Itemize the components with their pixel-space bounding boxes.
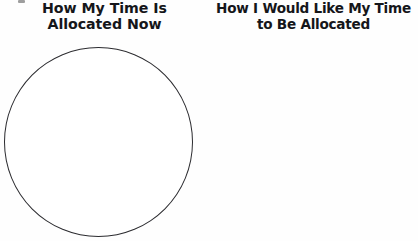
panel-title-current-line-2: Allocated Now: [0, 17, 209, 33]
empty-pie-chart-current[interactable]: [4, 47, 193, 237]
panel-title-current-line-1: How My Time Is: [0, 1, 209, 17]
panel-title-desired-line-2: to Be Allocated: [209, 17, 418, 33]
panel-desired-allocation: How I Would Like My Time to Be Allocated: [209, 0, 418, 241]
panel-current-allocation: How My Time Is Allocated Now: [0, 0, 209, 241]
panel-title-desired: How I Would Like My Time to Be Allocated: [209, 1, 418, 32]
panel-title-desired-line-1: How I Would Like My Time: [209, 1, 418, 17]
time-allocation-worksheet: How My Time Is Allocated Now How I Would…: [0, 0, 418, 241]
panel-title-current: How My Time Is Allocated Now: [0, 1, 209, 32]
